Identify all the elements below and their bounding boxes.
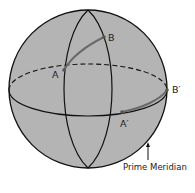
point-b-marker [102, 35, 106, 39]
label-b-prime: B′ [172, 84, 181, 95]
label-prime-meridian: Prime Meridian [123, 162, 187, 172]
label-a: A [52, 69, 59, 80]
point-b-prime-marker [165, 88, 169, 92]
point-a-marker [62, 68, 66, 72]
label-b: B [108, 32, 115, 43]
point-a-prime-marker [120, 110, 124, 114]
sphere [9, 10, 167, 168]
sphere-diagram: A B B′ A′ Prime Meridian [0, 0, 195, 193]
label-a-prime: A′ [120, 118, 129, 129]
